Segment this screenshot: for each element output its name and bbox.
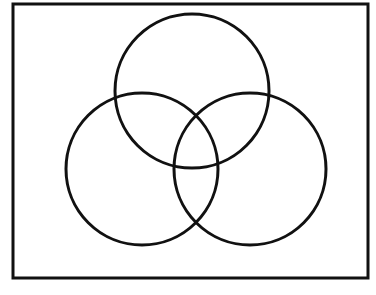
venn-diagram-canvas: G F E xyxy=(0,0,376,295)
figure-background xyxy=(0,0,376,295)
venn-diagram-figure: G F E xyxy=(0,0,376,295)
